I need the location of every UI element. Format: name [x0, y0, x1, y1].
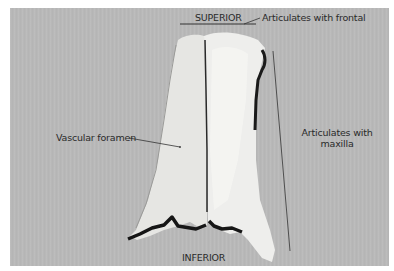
vascular-foramen-dot	[179, 146, 181, 148]
articulates-with-maxilla-line2: maxilla	[296, 138, 378, 149]
inferior-label: INFERIOR	[182, 252, 225, 263]
frontal-leader-line	[244, 18, 260, 24]
articulates-with-maxilla-label: Articulates with maxilla	[296, 127, 378, 149]
superior-label: SUPERIOR	[195, 12, 242, 23]
vascular-foramen-label: Vascular foramen	[56, 132, 136, 143]
articulates-with-frontal-label: Articulates with frontal	[262, 12, 365, 23]
articulates-with-maxilla-line1: Articulates with	[296, 127, 378, 138]
maxilla-bracket-line	[273, 51, 290, 251]
nasal-bone-left-half	[130, 35, 207, 240]
